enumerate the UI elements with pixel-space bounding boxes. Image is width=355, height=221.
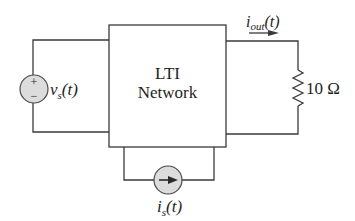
minus-sign: − — [31, 89, 38, 103]
resistor-value: 10 Ω — [306, 79, 340, 98]
circuit-diagram: LTI Network + − vs(t) 10 Ω iout(t) is(t) — [0, 0, 355, 221]
plus-sign: + — [31, 75, 38, 89]
output-current-label: iout(t) — [246, 13, 280, 32]
resistor-icon — [293, 70, 303, 106]
current-source — [154, 166, 182, 194]
current-source-label: is(t) — [157, 197, 182, 218]
block-label-line2: Network — [138, 83, 198, 102]
voltage-source: + − — [20, 75, 48, 103]
output-loop — [226, 41, 303, 134]
block-label-line1: LTI — [155, 64, 180, 83]
voltage-source-label: vs(t) — [50, 80, 78, 101]
